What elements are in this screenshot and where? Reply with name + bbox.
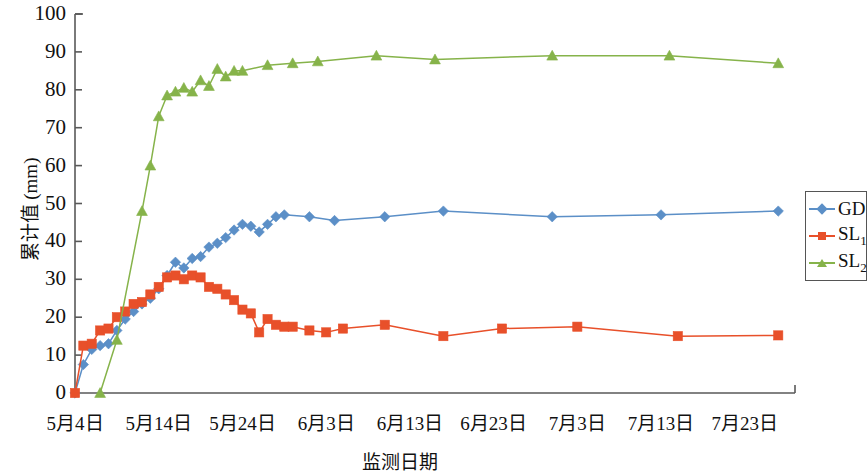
legend-swatch bbox=[809, 229, 835, 243]
data-point bbox=[196, 273, 205, 282]
data-point bbox=[573, 322, 582, 331]
data-point bbox=[380, 320, 389, 329]
x-tick-label: 7月13日 bbox=[628, 413, 695, 435]
y-tick-label: 70 bbox=[22, 117, 66, 138]
data-point bbox=[439, 332, 448, 341]
data-point bbox=[137, 206, 148, 216]
chart-figure: 累计值 (mm) 监测日期 0102030405060708090100 5月4… bbox=[0, 0, 868, 474]
data-point bbox=[178, 83, 189, 93]
plot-area bbox=[0, 0, 868, 474]
x-axis-title: 监测日期 bbox=[0, 447, 800, 474]
data-point bbox=[656, 210, 666, 220]
data-point bbox=[87, 339, 96, 348]
x-axis-tick-labels: 5月4日5月14日5月24日6月3日6月13日6月23日7月3日7月13日7月2… bbox=[0, 413, 868, 443]
data-point bbox=[70, 388, 79, 397]
y-tick-label: 40 bbox=[22, 230, 66, 251]
legend-label: SL1 bbox=[835, 223, 867, 249]
y-axis-tick-labels: 0102030405060708090100 bbox=[16, 0, 66, 474]
x-tick-label: 6月23日 bbox=[460, 413, 527, 435]
legend-marker-square-icon bbox=[818, 232, 826, 240]
legend-item-gd: GD bbox=[808, 195, 864, 222]
data-point bbox=[213, 284, 222, 293]
data-point bbox=[380, 212, 390, 222]
x-tick-label: 6月3日 bbox=[298, 413, 355, 435]
data-point bbox=[673, 332, 682, 341]
data-point bbox=[773, 206, 783, 216]
data-point bbox=[329, 215, 339, 225]
x-tick-label: 5月4日 bbox=[47, 413, 104, 435]
data-point bbox=[229, 296, 238, 305]
y-tick-label: 90 bbox=[22, 41, 66, 62]
data-point bbox=[322, 328, 331, 337]
data-point bbox=[774, 331, 783, 340]
data-point bbox=[263, 314, 272, 323]
x-tick-label: 7月23日 bbox=[712, 413, 779, 435]
data-point bbox=[129, 299, 138, 308]
data-point bbox=[212, 64, 223, 74]
data-point bbox=[96, 326, 105, 335]
y-tick-label: 10 bbox=[22, 344, 66, 365]
data-point bbox=[79, 341, 88, 350]
y-tick-label: 20 bbox=[22, 306, 66, 327]
data-point bbox=[171, 271, 180, 280]
x-tick-label: 7月3日 bbox=[549, 413, 606, 435]
data-point bbox=[246, 221, 256, 231]
data-point bbox=[288, 322, 297, 331]
data-point bbox=[246, 309, 255, 318]
x-tick-label: 6月13日 bbox=[377, 413, 444, 435]
data-point bbox=[279, 210, 289, 220]
data-point bbox=[305, 326, 314, 335]
legend-swatch bbox=[809, 202, 835, 216]
y-tick-label: 80 bbox=[22, 79, 66, 100]
data-point bbox=[154, 282, 163, 291]
legend-marker-triangle-icon bbox=[817, 259, 827, 267]
legend-item-sl2: SL2 bbox=[808, 249, 864, 276]
data-point bbox=[146, 290, 155, 299]
series-sl1 bbox=[70, 271, 782, 398]
data-point bbox=[204, 81, 215, 91]
data-point bbox=[438, 206, 448, 216]
data-point bbox=[188, 271, 197, 280]
data-point bbox=[170, 257, 180, 267]
x-tick-label: 5月24日 bbox=[209, 413, 276, 435]
y-tick-label: 30 bbox=[22, 268, 66, 289]
data-point bbox=[255, 328, 264, 337]
y-tick-label: 100 bbox=[22, 3, 66, 24]
data-point bbox=[497, 324, 506, 333]
legend-label: SL2 bbox=[835, 250, 867, 276]
y-tick-label: 50 bbox=[22, 193, 66, 214]
data-point bbox=[137, 297, 146, 306]
data-point bbox=[195, 75, 206, 85]
series-gd bbox=[70, 206, 784, 398]
data-point bbox=[271, 320, 280, 329]
legend-label: GD bbox=[835, 198, 865, 220]
legend-swatch bbox=[809, 256, 835, 270]
chart-legend: GDSL1SL2 bbox=[805, 191, 867, 281]
data-point bbox=[238, 305, 247, 314]
data-point bbox=[179, 275, 188, 284]
data-point bbox=[547, 212, 557, 222]
series-sl2 bbox=[95, 50, 784, 397]
data-point bbox=[221, 290, 230, 299]
data-point bbox=[104, 324, 113, 333]
data-point bbox=[153, 111, 164, 121]
data-point bbox=[338, 324, 347, 333]
data-point bbox=[145, 160, 156, 170]
data-point bbox=[304, 212, 314, 222]
legend-marker-diamond-icon bbox=[816, 203, 827, 214]
legend-item-sl1: SL1 bbox=[808, 222, 864, 249]
y-tick-label: 60 bbox=[22, 155, 66, 176]
x-tick-label: 5月14日 bbox=[125, 413, 192, 435]
y-tick-label: 0 bbox=[22, 382, 66, 403]
data-point bbox=[280, 322, 289, 331]
data-point bbox=[237, 219, 247, 229]
data-point bbox=[162, 273, 171, 282]
data-point bbox=[204, 282, 213, 291]
